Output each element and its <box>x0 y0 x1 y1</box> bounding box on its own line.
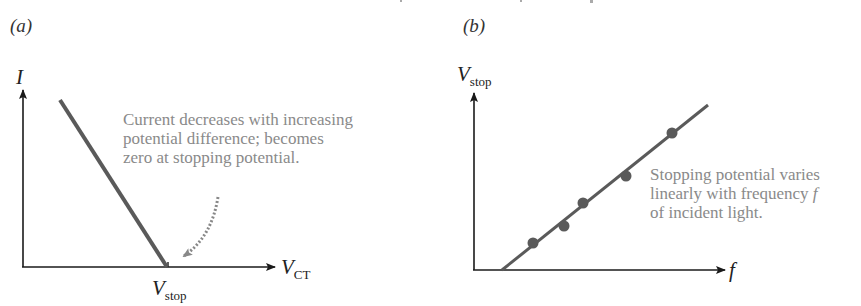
data-point <box>528 238 539 249</box>
data-point <box>578 198 589 209</box>
clipped-text-remnant <box>400 0 593 3</box>
dotted-arrow-icon <box>184 197 218 256</box>
data-point <box>621 171 632 182</box>
panel-a-label: (a) <box>10 15 32 37</box>
annotation-line: linearly with frequency f <box>650 184 820 203</box>
y-axis-label-main: V <box>457 62 470 86</box>
vstop-main: V <box>152 276 165 300</box>
annotation-line: of incident light. <box>650 203 820 222</box>
y-axis-label-i: I <box>16 65 23 90</box>
annotation-line: potential difference; becomes <box>123 129 353 148</box>
figure: (a) I VCT Vstop Current decreases with i… <box>0 0 861 306</box>
data-point <box>667 128 678 139</box>
x-axis-label-vct: VCT <box>281 255 310 283</box>
annotation-line: Stopping potential varies <box>650 165 820 184</box>
x-axis-label-main: V <box>281 255 294 279</box>
panel-a-annotation: Current decreases with increasing potent… <box>123 110 353 167</box>
annotation-line: Current decreases with increasing <box>123 110 353 129</box>
annotation-line: zero at stopping potential. <box>123 148 353 167</box>
x-axis-label-sub: CT <box>294 267 311 282</box>
panel-b-label: (b) <box>463 15 485 37</box>
y-axis-label-vstop: Vstop <box>457 62 492 90</box>
vstop-sub: stop <box>165 288 187 303</box>
data-point <box>559 221 570 232</box>
panel-b-annotation: Stopping potential varies linearly with … <box>650 165 820 222</box>
y-axis-label-sub: stop <box>470 74 492 89</box>
annotation-text: linearly with frequency <box>650 184 813 203</box>
vstop-marker-label: Vstop <box>152 276 187 304</box>
x-axis-label-f: f <box>729 258 735 283</box>
annotation-italic-f: f <box>813 184 818 203</box>
